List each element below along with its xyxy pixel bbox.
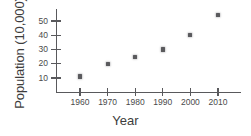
- y-tick-label: 10: [28, 74, 48, 83]
- x-axis-label: Year: [0, 113, 251, 128]
- y-tick-label: 20: [28, 59, 48, 68]
- x-tick-mark: [190, 88, 191, 96]
- y-tick-mark: [51, 20, 61, 21]
- y-tick-label: 40: [28, 31, 48, 40]
- data-point: [188, 33, 192, 37]
- data-point: [78, 74, 82, 78]
- y-tick-mark: [51, 63, 61, 64]
- x-tick-label: 1980: [120, 97, 150, 107]
- data-point: [133, 55, 137, 59]
- x-tick-label: 2000: [175, 97, 205, 107]
- y-tick-mark: [51, 35, 61, 36]
- x-tick-mark: [162, 88, 163, 96]
- scatter-chart-figure: Population (10,000) 5040302010 196019701…: [0, 0, 251, 136]
- y-tick-mark: [51, 77, 61, 78]
- x-axis-line: [56, 92, 241, 93]
- x-tick-label: 2010: [203, 97, 233, 107]
- data-point: [216, 13, 220, 17]
- data-point: [106, 62, 110, 66]
- x-tick-mark: [135, 88, 136, 96]
- y-tick-label: 30: [28, 45, 48, 54]
- x-tick-label: 1990: [148, 97, 178, 107]
- x-tick-label: 1960: [65, 97, 95, 107]
- x-tick-mark: [217, 88, 218, 96]
- x-tick-mark: [79, 88, 80, 96]
- x-tick-label: 1970: [93, 97, 123, 107]
- x-tick-mark: [107, 88, 108, 96]
- data-point: [161, 47, 165, 51]
- y-tick-mark: [51, 49, 61, 50]
- y-tick-label: 50: [28, 17, 48, 26]
